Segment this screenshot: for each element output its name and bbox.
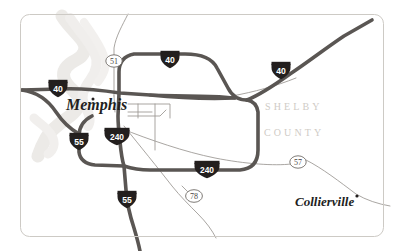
shield-number: 40	[53, 84, 63, 94]
shield-number: 240	[200, 165, 214, 175]
us51-number: 51	[110, 57, 118, 66]
shield-number: 55	[122, 195, 132, 205]
shield-i40-north[interactable]: 40	[161, 51, 180, 68]
map-graphic: Memphis Collierville SHELBY COUNTY 51 78…	[0, 0, 404, 251]
road-local-b	[128, 110, 166, 116]
collierville-dot	[355, 194, 358, 197]
road-us78-tick	[182, 186, 188, 192]
label-collierville: Collierville	[295, 194, 354, 209]
shield-number: 240	[110, 132, 124, 142]
sr57-number: 57	[294, 158, 302, 167]
label-county: COUNTY	[264, 127, 324, 138]
us78-number: 78	[190, 192, 198, 201]
shield-i40-west[interactable]: 40	[49, 80, 68, 97]
shield-i240-north[interactable]: 240	[105, 128, 130, 145]
shield-i55-west[interactable]: 55	[70, 133, 89, 150]
route-marker-us78[interactable]: 78	[186, 190, 203, 203]
shield-number: 55	[74, 137, 84, 147]
highway-i55-south	[124, 166, 140, 251]
highway-i240-south	[79, 116, 200, 170]
shield-number: 40	[276, 66, 286, 76]
map-canvas: Memphis Collierville SHELBY COUNTY 51 78…	[0, 0, 404, 251]
route-marker-sr57[interactable]: 57	[290, 156, 306, 168]
route-marker-us51[interactable]: 51	[106, 55, 122, 67]
label-shelby: SHELBY	[265, 101, 323, 112]
city-dots	[92, 98, 359, 198]
shield-number: 40	[165, 55, 175, 65]
label-memphis: Memphis	[65, 96, 127, 114]
road-us78	[124, 126, 216, 238]
shield-i240-south[interactable]: 240	[195, 161, 220, 178]
highway-i240-east	[200, 100, 258, 170]
shield-i55-south[interactable]: 55	[118, 191, 137, 208]
